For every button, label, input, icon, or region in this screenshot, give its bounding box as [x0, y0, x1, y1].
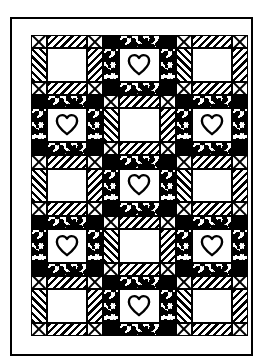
block-corner-patch — [31, 216, 47, 229]
block-center-patch — [47, 48, 88, 82]
quilt-block-grid — [31, 35, 248, 336]
block-corner-patch — [87, 323, 103, 336]
quilt-block-sawtooth-r3c3 — [176, 155, 248, 215]
block-corner-patch — [103, 142, 119, 155]
block-edge-patch — [192, 276, 233, 289]
block-corner-patch — [232, 276, 248, 289]
block-edge-patch — [119, 95, 160, 108]
quilt-block-sawtooth-r3c1 — [31, 155, 103, 215]
block-corner-patch — [232, 263, 248, 276]
block-edge-patch — [176, 289, 192, 323]
block-edge-patch — [119, 276, 160, 289]
block-edge-patch — [119, 323, 160, 336]
block-edge-patch — [119, 263, 160, 276]
block-edge-patch — [31, 108, 47, 142]
block-corner-patch — [103, 202, 119, 215]
heart-motif-icon — [47, 229, 88, 263]
block-corner-patch — [176, 35, 192, 48]
block-edge-patch — [103, 169, 119, 203]
block-edge-patch — [47, 142, 88, 155]
block-edge-patch — [47, 276, 88, 289]
block-corner-patch — [160, 35, 176, 48]
quilt-border-sashing — [15, 22, 248, 351]
block-corner-patch — [160, 202, 176, 215]
block-corner-patch — [103, 263, 119, 276]
block-corner-patch — [87, 155, 103, 168]
block-edge-patch — [160, 48, 176, 82]
block-corner-patch — [232, 35, 248, 48]
block-edge-patch — [47, 82, 88, 95]
block-edge-patch — [119, 155, 160, 168]
block-edge-patch — [119, 35, 160, 48]
block-edge-patch — [160, 169, 176, 203]
block-corner-patch — [160, 276, 176, 289]
block-corner-patch — [31, 142, 47, 155]
block-corner-patch — [31, 202, 47, 215]
block-edge-patch — [160, 229, 176, 263]
block-corner-patch — [176, 202, 192, 215]
block-edge-patch — [119, 202, 160, 215]
block-center-patch — [119, 108, 160, 142]
block-edge-patch — [103, 229, 119, 263]
block-corner-patch — [87, 276, 103, 289]
quilt-block-sawtooth-r5c1 — [31, 276, 103, 336]
block-edge-patch — [103, 108, 119, 142]
block-corner-patch — [103, 82, 119, 95]
block-edge-patch — [31, 48, 47, 82]
block-edge-patch — [87, 229, 103, 263]
block-corner-patch — [176, 323, 192, 336]
heart-motif-icon — [192, 108, 233, 142]
block-center-patch — [192, 169, 233, 203]
block-corner-patch — [176, 142, 192, 155]
heart-motif-icon — [119, 169, 160, 203]
block-edge-patch — [87, 289, 103, 323]
block-edge-patch — [87, 169, 103, 203]
block-corner-patch — [176, 276, 192, 289]
block-edge-patch — [192, 35, 233, 48]
quilt-block-heart-r5c2 — [103, 276, 175, 336]
block-corner-patch — [87, 202, 103, 215]
block-corner-patch — [87, 95, 103, 108]
block-edge-patch — [119, 216, 160, 229]
block-corner-patch — [87, 142, 103, 155]
quilt-block-sawtooth-r1c3 — [176, 35, 248, 95]
quilt-block-sawtooth-r1c1 — [31, 35, 103, 95]
block-corner-patch — [87, 216, 103, 229]
block-corner-patch — [31, 82, 47, 95]
heart-motif-icon — [119, 48, 160, 82]
block-corner-patch — [31, 323, 47, 336]
block-corner-patch — [103, 95, 119, 108]
block-edge-patch — [232, 108, 248, 142]
block-edge-patch — [87, 48, 103, 82]
block-edge-patch — [47, 216, 88, 229]
block-edge-patch — [192, 323, 233, 336]
block-edge-patch — [103, 48, 119, 82]
block-edge-patch — [160, 108, 176, 142]
block-edge-patch — [192, 142, 233, 155]
block-edge-patch — [232, 169, 248, 203]
block-corner-patch — [160, 155, 176, 168]
block-center-patch — [47, 289, 88, 323]
quilt-block-heart-r1c2 — [103, 35, 175, 95]
block-corner-patch — [103, 323, 119, 336]
block-center-patch — [192, 48, 233, 82]
block-corner-patch — [232, 202, 248, 215]
block-corner-patch — [232, 155, 248, 168]
block-corner-patch — [160, 95, 176, 108]
quilt-figure — [0, 0, 260, 361]
quilt-block-heart-r2c3 — [176, 95, 248, 155]
block-corner-patch — [31, 276, 47, 289]
block-edge-patch — [103, 289, 119, 323]
block-corner-patch — [232, 323, 248, 336]
block-corner-patch — [176, 155, 192, 168]
block-edge-patch — [176, 48, 192, 82]
block-corner-patch — [103, 216, 119, 229]
block-edge-patch — [47, 95, 88, 108]
block-edge-patch — [47, 323, 88, 336]
block-corner-patch — [160, 263, 176, 276]
heart-motif-icon — [47, 108, 88, 142]
block-corner-patch — [103, 155, 119, 168]
block-edge-patch — [192, 95, 233, 108]
block-edge-patch — [47, 35, 88, 48]
block-corner-patch — [87, 82, 103, 95]
